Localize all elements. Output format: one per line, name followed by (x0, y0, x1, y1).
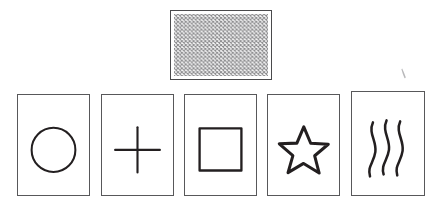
circle-symbol-icon (18, 95, 89, 195)
cross-hatch-pattern-icon (174, 14, 268, 76)
star-symbol-icon (268, 95, 339, 195)
plus-symbol-icon (102, 95, 173, 195)
card-square[interactable] (184, 94, 257, 196)
waves-symbol-icon (352, 92, 424, 195)
card-star[interactable] (267, 94, 340, 196)
card-circle[interactable] (17, 94, 90, 196)
stray-pen-mark (401, 68, 408, 79)
card-plus[interactable] (101, 94, 174, 196)
card-face-down[interactable] (170, 10, 272, 80)
square-symbol-icon (185, 95, 256, 195)
zener-card-scene (0, 0, 442, 215)
card-waves[interactable] (351, 91, 425, 196)
